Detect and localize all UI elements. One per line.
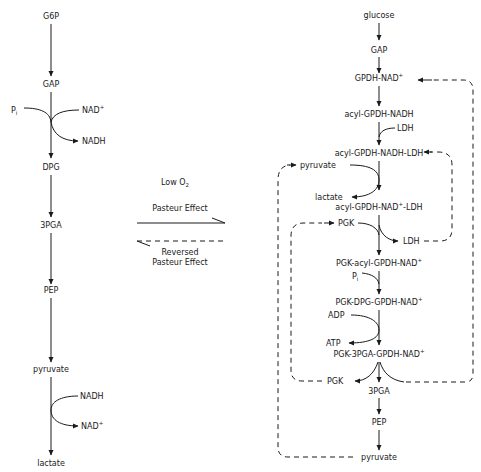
lactate-out-label: lactate xyxy=(315,193,343,202)
nad-curve xyxy=(51,110,79,122)
pi-right-curve xyxy=(362,273,379,284)
pgk-recycle-loop xyxy=(291,223,322,381)
ldh-in-label: LDH xyxy=(397,124,414,133)
node-pgk-3pga-gpdh-nad: PGK-3PGA-GPDH-NAD+ xyxy=(333,348,425,359)
adp-curve xyxy=(351,315,379,330)
pgk-out-curve xyxy=(355,362,378,381)
ldh-recycle-loop xyxy=(424,152,452,241)
pgk-in-label: PGK xyxy=(338,219,355,228)
gpdh-release-curve xyxy=(380,362,404,382)
atp-label: ATP xyxy=(326,339,341,348)
ldh-out-label: LDH xyxy=(403,237,420,246)
pgk-out-label: PGK xyxy=(327,377,344,386)
node-3pga-right: 3PGA xyxy=(368,387,390,396)
reversed-label-line1: Reversed xyxy=(161,248,198,257)
reversed-label-line2: Pasteur Effect xyxy=(152,258,208,267)
nad-out-curve xyxy=(51,410,78,426)
node-pep-right: PEP xyxy=(372,418,387,427)
pasteur-effect-arrows: Low O2 Pasteur Effect Reversed Pasteur E… xyxy=(137,178,225,267)
node-pgk-dpg-gpdh-nad: PGK-DPG-GPDH-NAD+ xyxy=(336,296,423,307)
low-o2-label: Low O2 xyxy=(161,178,189,188)
right-pathway: glucose GAP GPDH-NAD+ acyl-GPDH-NADH LDH… xyxy=(300,11,425,462)
node-lactate: lactate xyxy=(37,459,65,468)
node-pyruvate-right: pyruvate xyxy=(361,453,397,462)
adp-label: ADP xyxy=(328,311,345,320)
nadh-label: NADH xyxy=(82,137,106,146)
node-pgk-acyl-gpdh-nad: PGK-acyl-GPDH-NAD+ xyxy=(336,257,422,268)
reverse-arrow-barb xyxy=(137,241,150,246)
forward-arrow-barb xyxy=(212,218,225,223)
node-pyruvate: pyruvate xyxy=(33,365,69,374)
glycolysis-pasteur-diagram: G6P GAP Pi NAD+ NADH DPG 3PGA PEP pyruva… xyxy=(0,0,481,472)
pyruvate-in-curve xyxy=(350,165,379,180)
node-gap: GAP xyxy=(43,80,60,89)
recycle-loops xyxy=(278,80,473,457)
pi-right-label: Pi xyxy=(352,272,359,282)
pyruvate-in-label: pyruvate xyxy=(300,161,336,170)
ldh-in-curve xyxy=(379,128,395,137)
nad-plus-out-label: NAD+ xyxy=(81,420,104,431)
gpdh-recycle-loop xyxy=(406,80,473,382)
node-3pga: 3PGA xyxy=(40,221,62,230)
node-acyl-gpdh-nad-ldh: acyl-GPDH-NAD+-LDH xyxy=(335,201,422,212)
left-pathway: G6P GAP Pi NAD+ NADH DPG 3PGA PEP pyruva… xyxy=(11,12,106,468)
lactate-out-curve xyxy=(352,180,379,197)
nad-plus-label: NAD+ xyxy=(82,104,105,115)
node-gpdh-nad: GPDH-NAD+ xyxy=(355,72,404,83)
node-acyl-gpdh-nadh-ldh: acyl-GPDH-NADH-LDH xyxy=(335,149,424,158)
nadh-out-curve xyxy=(51,122,78,141)
nadh-in-curve xyxy=(51,396,78,410)
node-g6p: G6P xyxy=(43,12,59,21)
node-acyl-gpdh-nadh: acyl-GPDH-NADH xyxy=(344,110,413,119)
atp-curve xyxy=(349,330,379,343)
node-dpg: DPG xyxy=(42,163,59,172)
node-glucose: glucose xyxy=(364,11,395,20)
nadh-in-label: NADH xyxy=(80,392,104,401)
pi-curve xyxy=(24,108,51,122)
node-pep: PEP xyxy=(44,286,59,295)
pi-label: Pi xyxy=(11,106,18,116)
node-gap-right: GAP xyxy=(371,46,388,55)
pasteur-effect-label: Pasteur Effect xyxy=(152,204,208,213)
ldh-out-curve xyxy=(379,225,398,241)
pgk-in-curve xyxy=(358,223,379,235)
